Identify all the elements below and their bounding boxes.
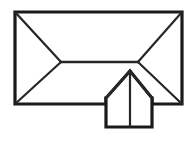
roof-plan-drawing (0, 0, 194, 149)
main-roof-outline (15, 12, 182, 104)
roof-plan-figure (0, 0, 194, 149)
